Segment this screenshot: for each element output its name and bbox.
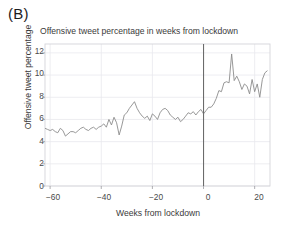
axis-tick-marks bbox=[42, 53, 255, 189]
grid-lines bbox=[45, 44, 270, 186]
plot-frame bbox=[45, 44, 270, 186]
figure-panel-b: (B) Offensive tweet percentage in weeks … bbox=[0, 0, 285, 229]
data-line-offensive-tweet-percentage bbox=[45, 54, 267, 136]
plot-area bbox=[0, 0, 285, 229]
